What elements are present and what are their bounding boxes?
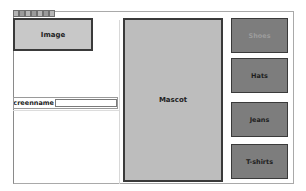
tshirts-button-label: T-shirts — [246, 158, 273, 166]
screenname-row: screenname — [13, 97, 118, 109]
hats-button[interactable]: Hats — [231, 58, 288, 93]
image-label: Image — [41, 31, 65, 39]
shoes-button-label: Shoes — [248, 32, 270, 40]
shoes-button[interactable]: Shoes — [231, 18, 288, 53]
tab-7[interactable] — [49, 10, 55, 17]
screenname-label: screenname — [14, 99, 54, 107]
mascot-panel: Mascot — [123, 18, 223, 182]
mascot-label: Mascot — [159, 96, 187, 104]
tab-strip — [13, 10, 55, 18]
row-separator — [13, 110, 119, 111]
left-panel-divider — [119, 20, 120, 184]
jeans-button-label: Jeans — [250, 116, 270, 124]
tshirts-button[interactable]: T-shirts — [231, 144, 288, 179]
jeans-button[interactable]: Jeans — [231, 102, 288, 137]
screenname-input[interactable] — [55, 99, 117, 107]
image-placeholder: Image — [13, 18, 93, 51]
hats-button-label: Hats — [251, 72, 268, 80]
